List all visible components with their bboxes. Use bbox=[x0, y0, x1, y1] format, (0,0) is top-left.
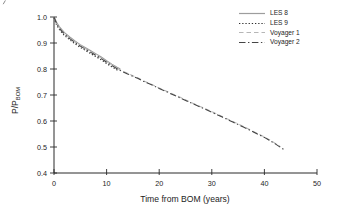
legend: LES 8LES 9Voyager 1Voyager 2 bbox=[239, 9, 300, 47]
legend-item-label: Voyager 2 bbox=[270, 38, 300, 47]
x-tick-label: 0 bbox=[52, 179, 56, 188]
x-axis-label: Time from BOM (years) bbox=[90, 194, 280, 204]
x-tick-label: 40 bbox=[260, 179, 268, 188]
legend-item: Voyager 1 bbox=[239, 29, 300, 38]
x-tick-label: 30 bbox=[208, 179, 216, 188]
y-tick-label: 0.4 bbox=[37, 169, 47, 178]
legend-item: LES 9 bbox=[239, 19, 300, 28]
legend-line-sample-les-8 bbox=[239, 9, 265, 18]
legend-item-label: Voyager 1 bbox=[270, 29, 300, 38]
y-axis-label-main: P/P bbox=[10, 100, 20, 114]
y-axis-label: P/PBOM bbox=[10, 69, 23, 133]
legend-item: LES 8 bbox=[239, 9, 300, 18]
y-tick-label: 1.0 bbox=[37, 13, 47, 22]
x-tick-label: 20 bbox=[155, 179, 163, 188]
legend-line-sample-voyager-2 bbox=[239, 38, 265, 47]
legend-item-label: LES 8 bbox=[270, 9, 288, 18]
x-tick-label: 10 bbox=[103, 179, 111, 188]
x-tick-label: 50 bbox=[313, 179, 321, 188]
y-tick-label: 0.6 bbox=[37, 117, 47, 126]
legend-line-sample-les-9 bbox=[239, 19, 265, 28]
y-tick-label: 0.5 bbox=[37, 143, 47, 152]
y-tick-label: 0.7 bbox=[37, 91, 47, 100]
corner-artifact-mark bbox=[3, 0, 5, 4]
legend-item: Voyager 2 bbox=[239, 38, 300, 47]
y-tick-label: 0.9 bbox=[37, 39, 47, 48]
series-line-les-9 bbox=[54, 18, 119, 72]
legend-line-sample-voyager-1 bbox=[239, 28, 265, 37]
legend-item-label: LES 9 bbox=[270, 19, 288, 28]
y-axis-label-subscript: BOM bbox=[15, 87, 21, 100]
y-tick-label: 0.8 bbox=[37, 65, 47, 74]
series-line-les-8 bbox=[54, 17, 120, 69]
rtg-power-degradation-figure: 1.00.90.80.70.60.50.401020304050 P/PBOM … bbox=[0, 0, 337, 219]
